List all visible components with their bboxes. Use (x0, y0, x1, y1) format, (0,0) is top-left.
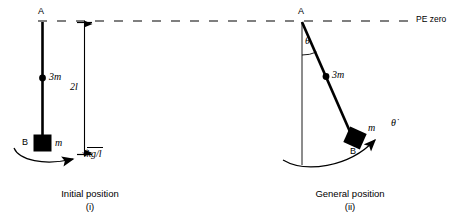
dimension-label-2l: 2l (70, 82, 78, 92)
caption-general-line1: General position (285, 188, 415, 201)
caption-initial-line1: Initial position (30, 188, 150, 201)
block-mass-label-general: m (368, 123, 375, 133)
caption-general-line2: (ii) (285, 201, 415, 214)
sqrt-radicand-text: kg/l (87, 147, 103, 159)
theta-angle-arc (302, 52, 317, 55)
caption-initial-position: Initial position (i) (30, 188, 150, 214)
point-mass-3m-general (323, 73, 330, 80)
pivot-label-a-initial: A (38, 6, 44, 16)
end-label-b-initial: B (22, 137, 28, 147)
angular-velocity-label-initial: √kg/l (82, 148, 103, 159)
rod-mass-label-initial: 3m (49, 72, 61, 82)
caption-initial-line2: (i) (30, 201, 150, 214)
pivot-label-a-general: A (298, 6, 304, 16)
pe-zero-label: PE zero (416, 14, 446, 24)
end-label-b-general: B (350, 146, 356, 156)
physics-diagram-figure: A 3m B m 2l √kg/l Initial position (i) A… (0, 0, 465, 223)
block-mass-m-initial (34, 135, 52, 152)
block-mass-label-initial: m (55, 138, 62, 148)
theta-angle-label: θ (305, 36, 310, 46)
rod-mass-label-general: 3m (332, 70, 344, 80)
point-mass-3m-initial (39, 75, 46, 82)
caption-general-position: General position (ii) (285, 188, 415, 214)
angular-rate-label-general: θ̇ (391, 118, 396, 128)
